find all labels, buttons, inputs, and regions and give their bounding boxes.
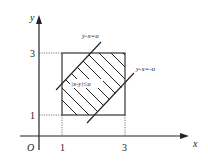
- y-tick-1: 1: [30, 110, 35, 121]
- diagram-canvas: y x O 3 1 1 3 y-x=u y-x=-u |x-y|≤u: [0, 0, 208, 164]
- x-axis-label: x: [192, 138, 198, 149]
- x-axis: [20, 133, 189, 139]
- origin-label: O: [27, 142, 34, 153]
- x-tick-3: 3: [122, 142, 127, 153]
- line-upper-label: y-x=u: [81, 32, 99, 40]
- y-axis: [36, 15, 42, 150]
- line-lower-label: y-x=-u: [135, 65, 156, 73]
- x-tick-1: 1: [60, 142, 65, 153]
- y-axis-label: y: [29, 12, 35, 23]
- region-label: |x-y|≤u: [71, 80, 91, 88]
- y-tick-3: 3: [30, 48, 35, 59]
- x-axis-arrow-icon: [180, 133, 189, 139]
- y-axis-arrow-icon: [36, 15, 42, 24]
